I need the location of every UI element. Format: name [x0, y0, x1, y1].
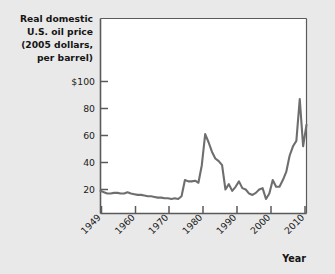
y-axis-title-line-2: U.S. oil price — [27, 26, 93, 37]
y-tick-label-20: 20 — [83, 184, 95, 195]
y-axis-title-line-3: (2005 dollars, — [21, 39, 93, 50]
y-axis-title-line-1: Real domestic — [20, 13, 93, 24]
x-axis-title: Year — [281, 253, 306, 264]
y-tick-label-100: $100 — [71, 76, 95, 87]
y-tick-label-60: 60 — [83, 130, 95, 141]
figure-container: Real domestic U.S. oil price (2005 dolla… — [0, 0, 335, 274]
y-tick-label-80: 80 — [83, 103, 95, 114]
y-tick-label-40: 40 — [83, 157, 95, 168]
y-axis-title-line-4: per barrel) — [37, 52, 93, 63]
oil-price-line-chart: Real domestic U.S. oil price (2005 dolla… — [0, 0, 335, 274]
